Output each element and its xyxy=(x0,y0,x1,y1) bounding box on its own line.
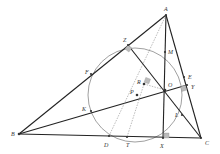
label-e: E xyxy=(187,74,192,80)
label-m: M xyxy=(167,49,174,55)
label-f: F xyxy=(84,69,89,75)
dashed-ad xyxy=(109,15,166,136)
right-angle-z xyxy=(125,45,132,52)
label-d: D xyxy=(103,142,109,148)
dashed-ro xyxy=(144,84,165,90)
line-by xyxy=(19,85,187,134)
label-x: X xyxy=(159,143,164,149)
label-c: C xyxy=(205,140,210,146)
label-z: Z xyxy=(123,37,127,43)
side-ab xyxy=(19,15,166,134)
right-angle-x xyxy=(164,133,169,138)
label-t: T xyxy=(126,142,130,148)
label-r: R xyxy=(136,79,141,85)
line-ax xyxy=(163,15,166,138)
label-o: O xyxy=(168,82,173,88)
label-p: P xyxy=(129,89,134,95)
label-y: Y xyxy=(191,84,195,90)
label-k: K xyxy=(81,106,87,112)
label-l: L xyxy=(174,112,179,118)
label-a: A xyxy=(163,6,168,12)
right-angle-r xyxy=(144,77,150,83)
label-b: B xyxy=(11,131,15,137)
geometry-diagram: A B C Z F K M E Y O R P L D T X xyxy=(0,0,220,154)
